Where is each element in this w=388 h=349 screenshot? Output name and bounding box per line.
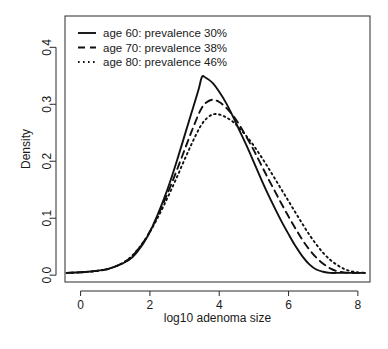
y-tick-label: 0.2 bbox=[40, 153, 54, 170]
x-axis-title: log10 adenoma size bbox=[164, 311, 272, 325]
y-tick-label: 0.1 bbox=[40, 210, 54, 227]
y-tick-label: 0.4 bbox=[40, 39, 54, 56]
x-tick-label: 8 bbox=[355, 298, 362, 312]
x-tick-label: 0 bbox=[77, 298, 84, 312]
y-tick-label: 0.0 bbox=[40, 267, 54, 284]
chart-canvas: 02468 0.00.10.20.30.4 age 60: prevalence… bbox=[0, 0, 388, 349]
legend-label-0: age 60: prevalence 30% bbox=[103, 27, 227, 39]
y-tick-label: 0.3 bbox=[40, 96, 54, 113]
x-tick-label: 6 bbox=[285, 298, 292, 312]
legend-label-2: age 80: prevalence 46% bbox=[103, 56, 227, 68]
x-tick-label: 4 bbox=[216, 298, 223, 312]
y-axis-title: Density bbox=[19, 129, 33, 169]
x-tick-label: 2 bbox=[147, 298, 154, 312]
legend-label-1: age 70: prevalence 38% bbox=[103, 42, 227, 54]
density-plot-figure: 02468 0.00.10.20.30.4 age 60: prevalence… bbox=[0, 0, 388, 349]
